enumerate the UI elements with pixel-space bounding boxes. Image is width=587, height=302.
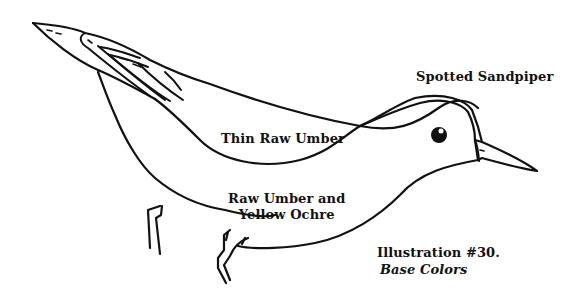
beak xyxy=(475,140,537,171)
lower-region-line-1: Raw Umber and xyxy=(228,191,345,207)
illustration-subtitle: Base Colors xyxy=(380,262,467,278)
eye-icon xyxy=(431,127,447,143)
wing-feathers xyxy=(81,33,183,101)
illustration-number: Illustration #30. xyxy=(377,245,500,261)
upper-region-label: Thin Raw Umber xyxy=(221,131,345,147)
species-title: Spotted Sandpiper xyxy=(416,69,553,85)
lower-region-line-2: Yellow Ochre xyxy=(228,207,345,223)
illustration-page: Spotted Sandpiper Thin Raw Umber Raw Umb… xyxy=(0,0,587,302)
lower-region-label: Raw Umber and Yellow Ochre xyxy=(228,191,345,223)
